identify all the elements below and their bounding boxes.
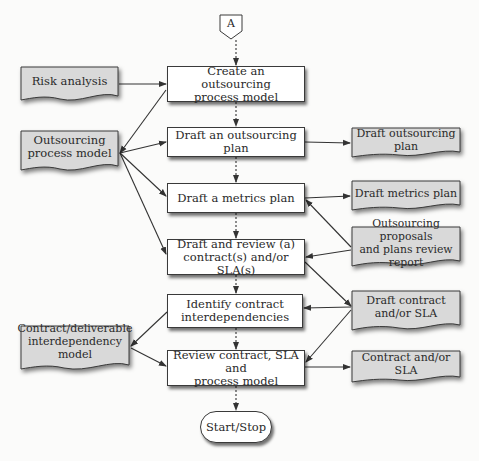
doc-contract-deliverable-model[interactable]: Contract/deliverableinterdependency mode… [20,325,130,371]
doc-label-line1: Draft contract [366,294,445,307]
label-line2: process model [172,375,300,388]
edge-p3-to-o_metrics [305,196,350,198]
process-draft-review-contracts[interactable]: Draft and review (a)contract(s) and/or S… [167,239,305,275]
doc-label-line2: and plans review report [354,243,458,269]
label-line2: interdependencies [181,311,289,324]
label-line1: Create an outsourcing [172,65,300,91]
connector-label: A [219,17,243,30]
edge-p2-to-o_plan [305,142,350,143]
doc-review-report[interactable]: Outsourcing proposalsand plans review re… [351,226,461,268]
doc-label-line2: process model [27,147,111,160]
label-line1: Draft a metrics plan [177,192,294,205]
label-line1: Draft and review (a) [172,238,300,251]
label-line1: Review contract, SLA and [172,349,300,375]
doc-label-line1: Outsourcing proposals [354,217,458,243]
edge-o_contract-to-p6 [306,310,351,362]
edge-o_review-to-p4 [306,250,351,257]
label-line1: Draft an outsourcing plan [172,129,300,155]
label-line2: process model [172,91,300,104]
edge-d_cdim-to-p6 [131,348,166,366]
doc-label-line2: and/or SLA [366,307,445,320]
edge-o_review-to-p3 [306,200,351,247]
label-line2: contract(s) and/or SLA(s) [172,251,300,277]
process-draft-metrics-plan[interactable]: Draft a metrics plan [167,183,305,213]
process-review-contract-sla[interactable]: Review contract, SLA andprocess model [167,350,305,386]
doc-label: Draft metrics plan [355,187,457,200]
edge-p4-to-o_contract [305,262,351,306]
edge-o_contract-to-p5 [304,307,351,308]
edge-d_opm-to-p4 [120,153,166,254]
doc-label-line2: interdependency model [18,335,133,361]
edge-d_opm-to-p3 [120,153,166,196]
doc-risk-analysis[interactable]: Risk analysis [20,66,119,102]
doc-draft-outsourcing-plan[interactable]: Draft outsourcing plan [351,127,461,159]
edge-p5-to-d_cdim [131,312,167,346]
doc-outsourcing-process-model[interactable]: Outsourcingprocess model [20,130,119,172]
process-draft-outsourcing-plan[interactable]: Draft an outsourcing plan [167,127,305,157]
terminal-start-stop[interactable]: Start/Stop [200,411,272,443]
start-connector-a: A [219,14,243,40]
doc-draft-metrics-plan[interactable]: Draft metrics plan [351,180,461,212]
doc-label-line1: Contract/deliverable [18,322,133,335]
doc-label: Draft outsourcing plan [354,127,458,153]
doc-draft-contract-sla[interactable]: Draft contractand/or SLA [351,290,461,332]
terminal-label: Start/Stop [206,420,266,434]
process-create-outsourcing-model[interactable]: Create an outsourcingprocess model [167,66,305,102]
process-identify-interdependencies[interactable]: Identify contractinterdependencies [167,294,303,328]
doc-label: Contract and/or SLA [354,351,458,377]
doc-label: Risk analysis [32,75,108,88]
doc-contract-sla[interactable]: Contract and/or SLA [351,350,461,384]
